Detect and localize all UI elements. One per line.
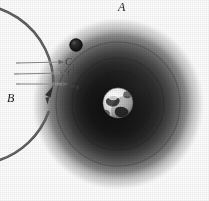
figure-canvas: A B C1 C2 C3 xyxy=(0,0,209,201)
incoming-rays xyxy=(14,60,68,87)
label-C-third: C3 xyxy=(69,79,79,91)
label-C-third-text: C xyxy=(69,78,76,89)
label-C-first-text: C xyxy=(65,56,72,67)
label-B: B xyxy=(7,92,14,104)
orbiting-body xyxy=(70,39,82,51)
label-A: A xyxy=(118,1,125,13)
label-C-third-sub: 3 xyxy=(76,85,79,91)
diagram-svg xyxy=(0,0,209,201)
label-C-second-text: C xyxy=(67,67,74,78)
